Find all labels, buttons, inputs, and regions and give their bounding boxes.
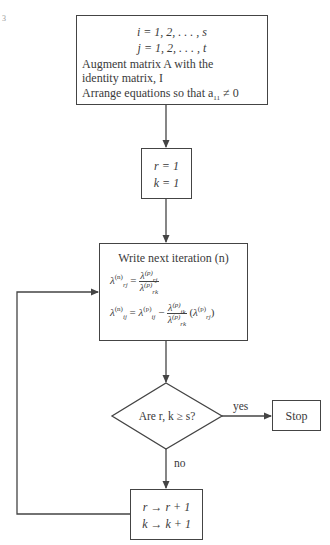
increment-r: r → r + 1 [131,500,202,514]
increment-k: k → k + 1 [131,517,202,531]
eq2-lhs-sup: (n) [115,305,123,313]
iterate-title: Write next iteration (n) [100,251,247,265]
init-augment-text: Augment matrix A with the [82,57,213,71]
increment-box: r → r + 1 k → k + 1 [130,489,203,540]
iterate-box: Write next iteration (n) λ(n)rj = λ(p)rj… [99,243,248,341]
init-j-range: j = 1, 2, . . . , t [77,41,267,55]
init-arrange-suffix: ≠ 0 [220,86,239,100]
eq2-tail-sub: rj [206,313,211,321]
eq2-equals: = [130,306,136,318]
eq2-tail-sup: (p) [198,305,206,313]
stop-box: Stop [272,400,321,431]
set-k: k = 1 [142,176,191,190]
set-r: r = 1 [142,159,191,173]
eq1-lhs-sup: (n) [115,273,123,281]
eq2-num-sup: (p) [172,301,180,309]
iterate-eq1: λ(n)rj = λ(p)rj λ(p)rk [110,270,159,293]
init-identity-text: identity matrix, I [82,71,163,85]
eq1-num-sup: (p) [145,269,153,277]
eq2-lhs-sub: ij [123,313,127,321]
eq2-fraction: λ(p)ik λ(p)rk [167,302,187,325]
eq1-equals: = [130,274,136,286]
eq1-lhs-sub: rj [123,281,128,289]
eq2-rhs1-sub: ij [151,313,155,321]
stop-label: Stop [273,409,320,423]
eq1-den-sub: rk [152,288,158,296]
eq1-fraction: λ(p)rj λ(p)rk [139,270,158,293]
decision-yes-label: yes [233,399,248,413]
eq2-minus: − [158,306,164,318]
init-arrange-prefix: Arrange equations so that a [82,86,213,100]
eq2-den-sub: rk [180,320,186,328]
iterate-eq2: λ(n)ij = λ(p)ij − λ(p)ik λ(p)rk (λ(p)rj) [110,302,214,325]
decision-no-label: no [174,456,186,470]
set-box: r = 1 k = 1 [141,148,192,199]
init-arrange-text: Arrange equations so that a11 ≠ 0 [82,86,239,100]
init-i-range: i = 1, 2, . . . , s [77,25,267,39]
eq2-den-sup: (p) [172,313,180,321]
decision-label: Are r, k ≥ s? [112,409,222,423]
init-box: i = 1, 2, . . . , s j = 1, 2, . . . , t … [76,15,268,105]
